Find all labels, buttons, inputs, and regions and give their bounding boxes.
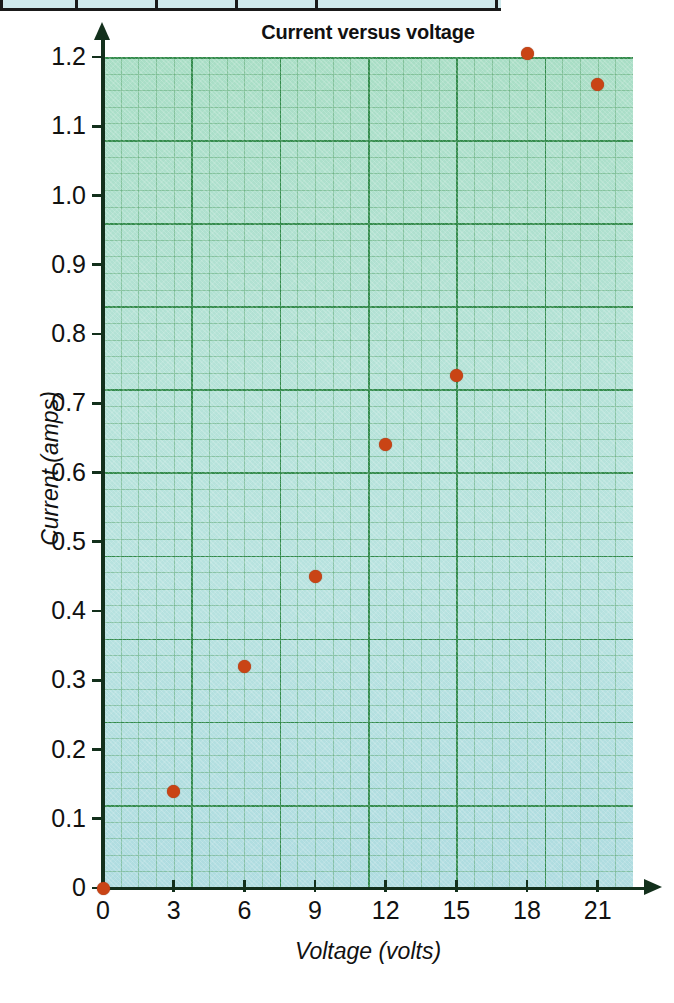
y-axis-tick	[92, 125, 104, 128]
x-axis-tick	[314, 880, 317, 892]
x-axis-tick-label: 21	[568, 898, 628, 923]
y-axis-tick-label: 1.2	[51, 44, 86, 69]
x-axis-tick	[384, 880, 387, 892]
y-axis-tick	[92, 471, 104, 474]
y-axis-tick	[92, 333, 104, 336]
x-axis-tick-label: 3	[144, 898, 204, 923]
x-axis-arrowhead-icon	[644, 879, 662, 895]
x-axis-tick	[455, 880, 458, 892]
y-axis-tick-label: 0.9	[51, 252, 86, 277]
y-axis-tick	[92, 56, 104, 59]
y-axis-line	[101, 36, 105, 890]
y-axis-tick-label: 0.2	[51, 737, 86, 762]
x-axis-tick	[243, 880, 246, 892]
x-axis-tick-label: 6	[214, 898, 274, 923]
y-axis-title: Current (amps)	[37, 324, 64, 614]
y-axis-tick	[92, 748, 104, 751]
y-axis-tick-label: 1.0	[51, 183, 86, 208]
x-axis-tick	[172, 880, 175, 892]
y-axis-arrowhead-icon	[94, 22, 110, 40]
y-axis-tick	[92, 402, 104, 405]
scatter-chart: Current versus voltage 00.10.20.30.40.50…	[0, 0, 674, 1003]
y-axis-tick-label: 0.3	[51, 667, 86, 692]
x-axis-tick	[102, 880, 105, 892]
y-axis-tick	[92, 817, 104, 820]
y-axis-tick	[92, 610, 104, 613]
x-axis-tick-label: 12	[356, 898, 416, 923]
x-axis-line	[101, 887, 646, 891]
x-axis-tick	[526, 880, 529, 892]
chart-title: Current versus voltage	[103, 21, 633, 44]
y-axis-tick	[92, 679, 104, 682]
x-axis-tick-label: 0	[73, 898, 133, 923]
x-axis-tick-label: 9	[285, 898, 345, 923]
x-axis-tick-label: 18	[497, 898, 557, 923]
y-axis-tick	[92, 540, 104, 543]
grid-major-lines	[103, 57, 633, 888]
x-axis-tick-label: 15	[426, 898, 486, 923]
y-axis-tick-label: 1.1	[51, 113, 86, 138]
x-axis-tick	[596, 880, 599, 892]
x-axis-title: Voltage (volts)	[103, 938, 633, 965]
y-axis-tick	[92, 194, 104, 197]
y-axis-tick-label: 0.1	[51, 806, 86, 831]
y-axis-tick-label: 0	[72, 875, 86, 900]
plot-area	[103, 57, 633, 888]
y-axis-tick	[92, 263, 104, 266]
